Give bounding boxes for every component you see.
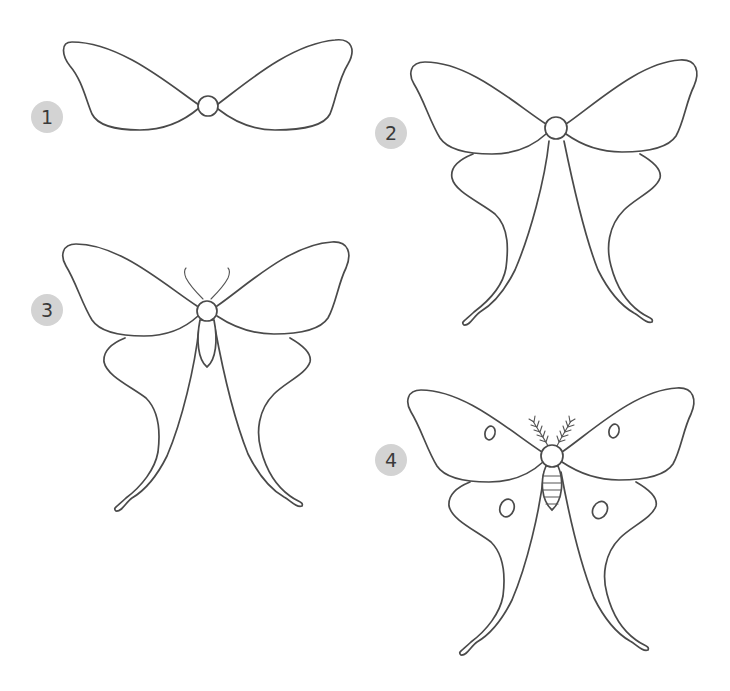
right-forewing-spot [607,423,620,439]
left-hindwing-spot [497,497,516,519]
step-1-moth-drawing [64,40,352,130]
right-hindwing [564,141,660,322]
step-2-moth-drawing [411,60,697,325]
body-circle [541,445,563,467]
step-3-moth-drawing [63,242,349,511]
body-circle [197,301,217,321]
left-feathered-antenna [529,416,548,446]
right-forewing [562,388,694,480]
left-forewing [408,390,543,482]
body-circle [545,117,567,139]
left-hindwing [449,472,544,655]
right-antenna [211,268,230,299]
drawing-canvas [0,0,730,691]
right-forewing [218,40,352,130]
right-hindwing [561,472,656,650]
body-circle [198,96,218,116]
left-hindwing [104,328,199,511]
left-forewing [64,42,200,130]
left-antenna [185,268,204,299]
left-forewing-spot [483,425,496,441]
right-forewing [566,60,697,152]
abdomen [198,320,216,367]
step-4-moth-drawing [408,388,694,655]
left-hindwing [452,141,549,325]
left-forewing [411,62,546,154]
right-forewing [217,242,349,334]
right-hindwing [215,328,310,506]
left-forewing [63,244,198,336]
right-feathered-antenna [557,416,575,446]
right-hindwing-spot [589,499,610,522]
abdomen [542,466,561,510]
